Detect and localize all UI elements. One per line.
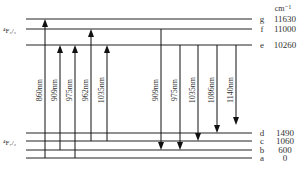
arrowhead-icon [195,133,201,141]
absorption-wavelength-label: 860nm [35,78,44,101]
emission-wavelength-label: 1086nm [207,76,216,103]
absorption-wavelength-label: 962nm [81,78,90,101]
lower-manifold-label: ⁴F₇/₂ [3,139,17,147]
transition-arrows: 860nm909nm975nm962nm1035nm909nm975nm1035… [35,19,239,158]
level-energy: 0 [283,153,288,163]
arrowhead-icon [88,29,94,37]
level-energy: 10260 [274,40,297,50]
level-letter: g [260,14,265,24]
diagram-canvas: 860nm909nm975nm962nm1035nm909nm975nm1035… [0,0,299,169]
emission-wavelength-label: 909nm [151,78,160,101]
arrowhead-icon [42,19,48,27]
energy-level-diagram: 860nm909nm975nm962nm1035nm909nm975nm1035… [0,0,299,169]
absorption-wavelength-label: 975nm [65,78,74,101]
arrowhead-icon [177,142,183,150]
level-energy: 11630 [274,14,297,24]
arrowhead-icon [233,117,239,125]
emission-wavelength-label: 1140nm [226,76,235,103]
level-letter: e [260,40,264,50]
unit-label: cm⁻¹ [275,4,292,13]
arrowhead-icon [72,45,78,53]
arrowhead-icon [214,125,220,133]
absorption-wavelength-label: 909nm [50,78,59,101]
level-letter: f [261,24,264,34]
arrowhead-icon [57,45,63,53]
emission-wavelength-label: 975nm [170,78,179,101]
level-energy: 11000 [274,24,297,34]
arrowhead-icon [158,142,164,150]
arrowhead-icon [104,45,110,53]
emission-wavelength-label: 1035nm [188,76,197,103]
absorption-wavelength-label: 1035nm [97,76,106,103]
level-labels: g11630f11000e10260d1490c1060b600a0cm⁻¹⁴F… [3,4,297,163]
level-letter: a [260,153,264,163]
upper-manifold-label: ⁴F₃/₂ [3,27,17,35]
